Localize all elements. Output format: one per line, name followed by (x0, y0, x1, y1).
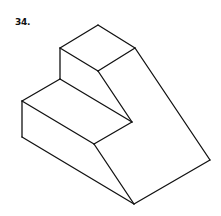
edge-DH (98, 71, 132, 122)
edge-CD (98, 48, 135, 71)
edge-BD (60, 48, 98, 71)
isometric-block-drawing (0, 0, 221, 216)
edge-EH (60, 79, 132, 122)
edge-IJ (94, 144, 134, 204)
edge-IH (94, 122, 132, 144)
edge-AC (98, 25, 135, 48)
edge-FI (22, 101, 94, 144)
edge-GJ (22, 137, 134, 204)
edge-AB (60, 25, 98, 48)
edge-JK (134, 160, 210, 204)
edge-EF (22, 79, 60, 101)
edge-CK (135, 48, 210, 160)
